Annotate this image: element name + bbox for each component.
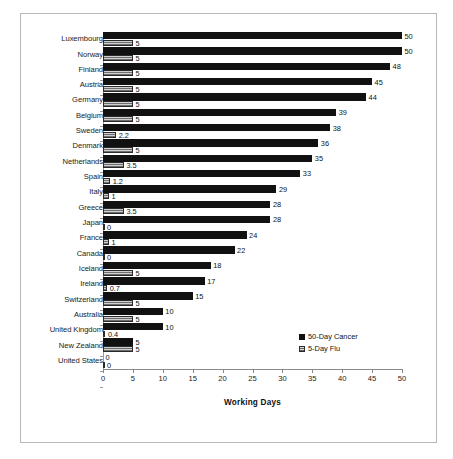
bar-50-day-cancer <box>103 170 300 177</box>
category-label: Luxembourg <box>25 35 103 43</box>
bar-50-day-cancer <box>103 93 366 100</box>
category-label: Spain <box>25 173 103 181</box>
chart-row: 185 <box>103 262 402 277</box>
category-label: Australia <box>25 311 103 319</box>
x-axis-tick-label: 50 <box>398 375 406 383</box>
bar-5-day-flu <box>103 162 124 168</box>
category-label: United Kingdom <box>25 326 103 334</box>
bar-50-day-cancer <box>103 246 235 253</box>
chart-row: 505 <box>103 47 402 62</box>
bar-value-label: 5 <box>135 70 139 77</box>
bar-value-label: 1 <box>111 239 115 246</box>
chart-row: 382.2 <box>103 124 402 139</box>
bar-50-day-cancer <box>103 308 163 315</box>
category-label: Denmark <box>25 142 103 150</box>
bar-value-label: 0.7 <box>110 285 120 292</box>
bar-50-day-cancer <box>103 124 330 131</box>
category-label: Greece <box>25 204 103 212</box>
bar-5-day-flu <box>103 224 105 230</box>
bar-50-day-cancer <box>103 78 372 85</box>
bar-5-day-flu <box>103 270 133 276</box>
bar-value-label: 29 <box>279 186 287 193</box>
x-axis-tick <box>372 369 373 373</box>
chart-row: 220 <box>103 246 402 261</box>
x-axis-tick <box>103 369 104 373</box>
x-axis-tick-label: 35 <box>308 375 316 383</box>
bar-value-label: 5 <box>135 116 139 123</box>
category-label: Germany <box>25 96 103 104</box>
category-axis-labels: LuxembourgNorwayFinlandAustriaGermanyBel… <box>25 14 103 443</box>
bar-50-day-cancer <box>103 32 402 39</box>
category-label: Finland <box>25 66 103 74</box>
bar-value-label: 10 <box>165 308 173 315</box>
x-axis-tick <box>312 369 313 373</box>
category-label: Norway <box>25 51 103 59</box>
bar-50-day-cancer <box>103 216 270 223</box>
bar-value-label: 0 <box>107 254 111 261</box>
chart-row: 353.5 <box>103 155 402 170</box>
category-label: Ireland <box>25 280 103 288</box>
bar-value-label: 15 <box>195 293 203 300</box>
chart-row: 105 <box>103 308 402 323</box>
bar-value-label: 3.5 <box>126 162 136 169</box>
bar-value-label: 2.2 <box>119 132 129 139</box>
bar-value-label: 48 <box>393 63 401 70</box>
bars-area: Working Days 505505485455445395382.23653… <box>103 14 437 443</box>
bar-value-label: 5 <box>135 346 139 353</box>
bar-value-label: 22 <box>237 247 245 254</box>
bar-value-label: 1 <box>111 193 115 200</box>
bar-value-label: 24 <box>249 232 257 239</box>
bar-value-label: 36 <box>321 140 329 147</box>
chart-row: 485 <box>103 63 402 78</box>
category-label: Iceland <box>25 265 103 273</box>
bar-value-label: 5 <box>135 300 139 307</box>
bar-value-label: 39 <box>339 109 347 116</box>
chart-row: 170.7 <box>103 277 402 292</box>
bar-value-label: 3.5 <box>126 208 136 215</box>
bar-5-day-flu <box>103 132 116 138</box>
bar-value-label: 50 <box>405 33 413 40</box>
category-label: Japan <box>25 219 103 227</box>
bar-5-day-flu <box>103 285 107 291</box>
bar-5-day-flu <box>103 239 109 245</box>
chart-frame: LuxembourgNorwayFinlandAustriaGermanyBel… <box>20 13 437 443</box>
bar-5-day-flu <box>103 147 133 153</box>
legend-swatch-black-icon <box>299 334 305 340</box>
bar-5-day-flu <box>103 362 105 368</box>
bar-value-label: 38 <box>333 125 341 132</box>
chart-row: 280 <box>103 216 402 231</box>
x-axis-tick-label: 20 <box>218 375 226 383</box>
category-label: New Zealand <box>25 342 103 350</box>
category-label: Netherlands <box>25 158 103 166</box>
bar-value-label: 5 <box>135 40 139 47</box>
category-label: United States <box>25 357 103 365</box>
category-label: France <box>25 234 103 242</box>
chart-row: 505 <box>103 32 402 47</box>
chart-row: 365 <box>103 139 402 154</box>
bar-5-day-flu <box>103 116 133 122</box>
bar-value-label: 5 <box>135 101 139 108</box>
bar-5-day-flu <box>103 346 133 352</box>
bar-5-day-flu <box>103 193 109 199</box>
bar-5-day-flu <box>103 70 133 76</box>
x-axis-tick-label: 5 <box>131 375 135 383</box>
chart-row: 331.2 <box>103 170 402 185</box>
x-axis-tick <box>133 369 134 373</box>
chart-plot-area: LuxembourgNorwayFinlandAustriaGermanyBel… <box>21 14 437 443</box>
x-axis-tick <box>223 369 224 373</box>
bar-50-day-cancer <box>103 262 211 269</box>
x-axis-tick-label: 25 <box>248 375 256 383</box>
chart-row: 00 <box>103 354 402 369</box>
bar-value-label: 0 <box>107 362 111 369</box>
bar-value-label: 0 <box>107 224 111 231</box>
bar-value-label: 1.2 <box>113 178 123 185</box>
bar-5-day-flu <box>103 316 133 322</box>
x-axis-tick <box>163 369 164 373</box>
chart-row: 455 <box>103 78 402 93</box>
category-label: Switzerland <box>25 296 103 304</box>
bar-value-label: 45 <box>375 79 383 86</box>
bar-5-day-flu <box>103 208 124 214</box>
chart-row: 155 <box>103 292 402 307</box>
bar-value-label: 10 <box>165 324 173 331</box>
bar-value-label: 28 <box>273 216 281 223</box>
